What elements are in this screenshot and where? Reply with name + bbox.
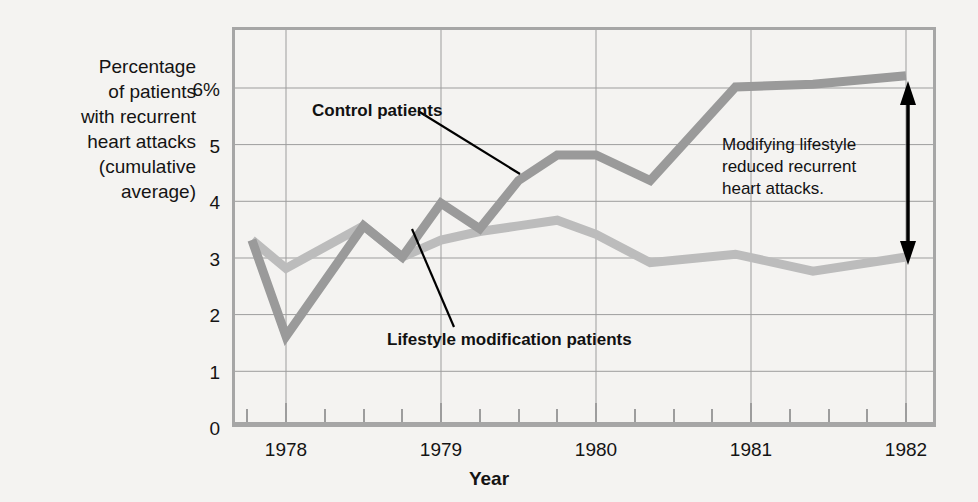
x-axis-title: Year [0,468,978,490]
plot-area [232,27,936,427]
annotation-note-line: reduced recurrent [722,156,907,178]
y-tick-label-1: 1 [166,363,220,382]
y-axis-title-line: with recurrent [10,104,196,129]
x-minor-ticks [247,403,906,422]
chart-svg [232,27,936,427]
range-arrow-head-up [900,81,916,105]
x-tick-label-1980: 1980 [556,440,636,459]
annotation-note-line: heart attacks. [722,178,907,200]
y-tick-label-6: 6% [166,80,220,99]
series-label-lifestyle: Lifestyle modification patients [387,330,632,350]
y-axis-title-line: (cumulative [10,154,196,179]
x-tick-label-1978: 1978 [246,440,326,459]
chart-figure: Percentage of patients with recurrent he… [0,0,978,502]
y-tick-label-3: 3 [166,250,220,269]
y-tick-label-0: 0 [166,419,220,438]
y-tick-label-2: 2 [166,306,220,325]
y-axis-title: Percentage of patients with recurrent he… [10,54,196,204]
y-tick-label-4: 4 [166,193,220,212]
y-axis-title-line: Percentage [10,54,196,79]
x-tick-label-1981: 1981 [711,440,791,459]
series-label-control: Control patients [312,101,442,121]
x-tick-label-1979: 1979 [401,440,481,459]
x-tick-label-1982: 1982 [866,440,946,459]
annotation-note-line: Modifying lifestyle [722,134,907,156]
y-tick-label-5: 5 [166,137,220,156]
annotation-note: Modifying lifestyle reduced recurrent he… [722,134,907,200]
